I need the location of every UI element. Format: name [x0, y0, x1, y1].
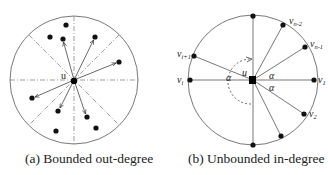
svg-text:α: α: [269, 82, 275, 93]
svg-text:α: α: [226, 72, 232, 83]
panel-b-center-node-u: [249, 76, 256, 84]
svg-text:vn-1: vn-1: [310, 38, 323, 50]
panel-b-vertex-labels: vn-2 vn-1 v1 v2 vi vi+1: [177, 15, 326, 120]
panel-a-center-node-u: [71, 78, 77, 84]
caption-panel-b: (b) Unbounded in-degree: [188, 151, 324, 167]
caption-panel-a: (a) Bounded out-degree: [25, 151, 153, 167]
diagram-canvas: u u α: [0, 0, 328, 175]
svg-text:v1: v1: [318, 74, 326, 86]
panel-b-rotation-arrow: [228, 59, 251, 104]
svg-text:vn-2: vn-2: [289, 15, 303, 27]
panel-a-bounded-out-degree: u: [10, 16, 138, 144]
svg-text:vi+1: vi+1: [177, 48, 191, 60]
panel-a-nodes: [29, 22, 121, 133]
panel-a-edges: [35, 40, 116, 114]
panel-a-label-u: u: [61, 70, 66, 81]
svg-text:v2: v2: [309, 108, 317, 120]
panel-b-unbounded-in-degree: u α α α vn-2 vn-1 v1 v2 vi vi+1: [177, 13, 326, 147]
panel-b-label-u: u: [242, 67, 247, 78]
svg-text:vi: vi: [177, 74, 183, 86]
panel-b-rotation-arrowhead-icon: [246, 57, 252, 62]
svg-text:α: α: [269, 70, 275, 81]
